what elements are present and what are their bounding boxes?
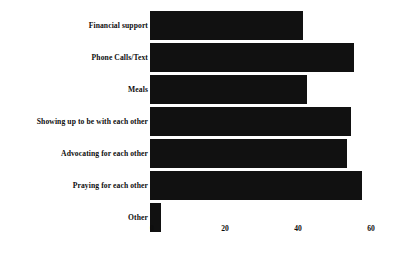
bar-track <box>150 43 390 72</box>
bar-track <box>150 107 390 136</box>
bar-track <box>150 171 390 200</box>
x-axis: 0 20 40 60 <box>150 224 390 244</box>
bar-row: Meals <box>0 75 398 104</box>
bar-track <box>150 139 390 168</box>
bar-track <box>150 11 390 40</box>
category-label: Praying for each other <box>73 171 148 200</box>
bar-meals <box>150 75 307 104</box>
x-tick-20: 20 <box>221 224 229 233</box>
bar-row: Financial support <box>0 11 398 40</box>
bar-rows: Financial support Phone Calls/Text Meals… <box>0 11 398 235</box>
bar-track <box>150 75 390 104</box>
bar-financial-support <box>150 11 303 40</box>
bar-praying <box>150 171 362 200</box>
bar-row: Advocating for each other <box>0 139 398 168</box>
bar-advocating <box>150 139 347 168</box>
x-tick-40: 40 <box>294 224 302 233</box>
bar-row: Praying for each other <box>0 171 398 200</box>
x-tick-0: 0 <box>150 224 154 233</box>
bar-row: Showing up to be with each other <box>0 107 398 136</box>
category-label: Other <box>128 203 148 232</box>
category-label: Meals <box>128 75 148 104</box>
category-label: Phone Calls/Text <box>92 43 148 72</box>
bar-phone-calls-text <box>150 43 354 72</box>
category-label: Financial support <box>89 11 148 40</box>
category-label: Showing up to be with each other <box>37 107 148 136</box>
x-tick-60: 60 <box>367 224 375 233</box>
bar-chart-screenshot: Financial support Phone Calls/Text Meals… <box>0 0 398 256</box>
bar-showing-up <box>150 107 351 136</box>
category-label: Advocating for each other <box>61 139 148 168</box>
chart-plot-area: Financial support Phone Calls/Text Meals… <box>0 0 398 256</box>
bar-row: Phone Calls/Text <box>0 43 398 72</box>
